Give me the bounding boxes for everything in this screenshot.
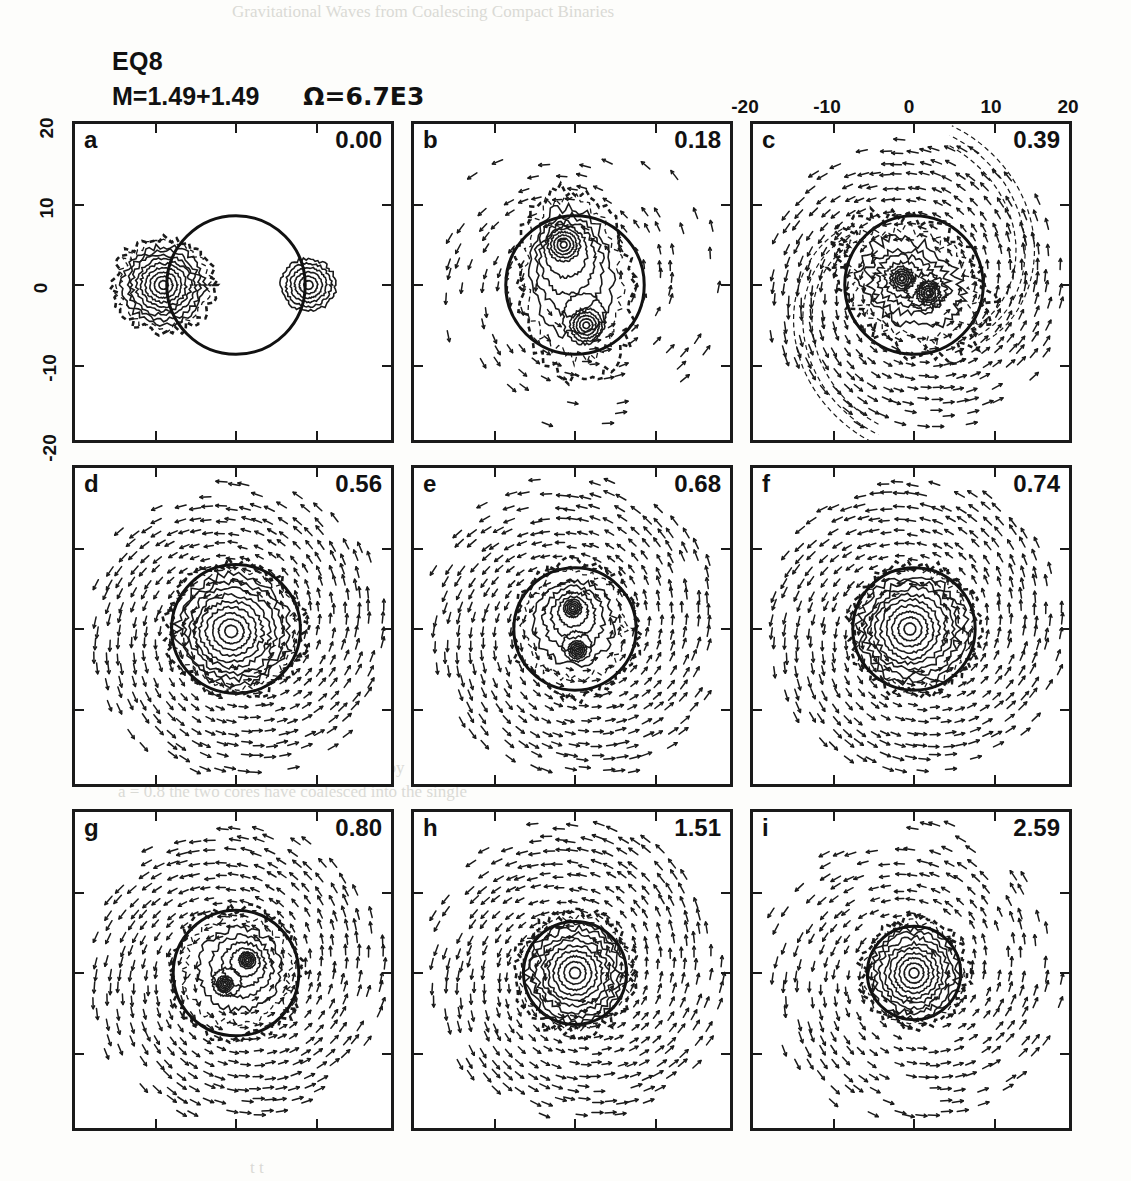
- panel-label: b: [423, 128, 438, 152]
- x-tick-label: -10: [813, 96, 840, 118]
- panel-i-plot: [753, 812, 1072, 1131]
- axis-tick: [414, 709, 423, 711]
- panel-b[interactable]: b 0.18: [411, 121, 733, 443]
- axis-tick: [414, 892, 423, 894]
- axis-tick: [994, 431, 996, 440]
- panel-f[interactable]: f 0.74: [750, 465, 1072, 787]
- y-tick-label: -20: [39, 434, 61, 461]
- axis-tick: [316, 775, 318, 784]
- panel-time: 0.56: [335, 472, 382, 496]
- axis-tick: [1060, 365, 1069, 367]
- axis-tick: [1060, 548, 1069, 550]
- panel-time: 0.74: [1013, 472, 1060, 496]
- axis-tick: [75, 548, 84, 550]
- panel-e[interactable]: e 0.68: [411, 465, 733, 787]
- axis-tick: [574, 431, 576, 440]
- axis-tick: [75, 972, 84, 974]
- panel-g[interactable]: g 0.80: [72, 809, 394, 1131]
- axis-tick: [574, 124, 576, 133]
- axis-tick: [913, 124, 915, 133]
- axis-tick: [235, 468, 237, 477]
- axis-tick: [721, 284, 730, 286]
- axis-tick: [1060, 972, 1069, 974]
- axis-tick: [753, 709, 762, 711]
- panel-d[interactable]: d 0.56: [72, 465, 394, 787]
- axis-tick: [753, 365, 762, 367]
- panel-time: 0.00: [335, 128, 382, 152]
- panel-time: 1.51: [674, 816, 721, 840]
- axis-tick: [414, 284, 423, 286]
- axis-tick: [235, 775, 237, 784]
- axis-tick: [753, 284, 762, 286]
- panel-label: h: [423, 816, 438, 840]
- panel-label: g: [84, 816, 99, 840]
- axis-tick: [316, 124, 318, 133]
- panel-f-plot: [753, 468, 1072, 787]
- axis-tick: [913, 468, 915, 477]
- axis-tick: [753, 892, 762, 894]
- panel-a-plot: [75, 124, 394, 443]
- axis-tick: [414, 548, 423, 550]
- panel-label: e: [423, 472, 436, 496]
- axis-tick: [494, 1119, 496, 1128]
- axis-tick: [75, 365, 84, 367]
- axis-tick: [414, 365, 423, 367]
- axis-tick: [721, 628, 730, 630]
- panel-e-plot: [414, 468, 733, 787]
- axis-tick: [655, 124, 657, 133]
- axis-tick: [155, 468, 157, 477]
- axis-tick: [721, 892, 730, 894]
- density-contours: [110, 235, 336, 335]
- axis-tick: [721, 972, 730, 974]
- density-contours: [846, 562, 983, 699]
- velocity-vectors: [430, 479, 711, 773]
- axis-tick: [494, 431, 496, 440]
- axis-tick: [913, 812, 915, 821]
- axis-tick: [494, 812, 496, 821]
- panel-label: c: [762, 128, 775, 152]
- x-tick-label: -20: [731, 96, 758, 118]
- axis-tick: [235, 124, 237, 133]
- axis-tick: [655, 468, 657, 477]
- axis-tick: [316, 1119, 318, 1128]
- panel-time: 0.80: [335, 816, 382, 840]
- axis-tick: [1060, 204, 1069, 206]
- panel-h[interactable]: h 1.51: [411, 809, 733, 1131]
- axis-tick: [382, 892, 391, 894]
- panel-time: 0.68: [674, 472, 721, 496]
- velocity-vectors: [93, 480, 386, 774]
- axis-tick: [155, 124, 157, 133]
- axis-tick: [721, 1053, 730, 1055]
- axis-tick: [833, 775, 835, 784]
- panel-d-plot: [75, 468, 394, 787]
- axis-tick: [382, 628, 391, 630]
- axis-tick: [994, 468, 996, 477]
- axis-tick: [382, 1053, 391, 1055]
- axis-tick: [1060, 1053, 1069, 1055]
- axis-tick: [382, 972, 391, 974]
- axis-tick: [155, 775, 157, 784]
- axis-tick: [414, 204, 423, 206]
- axis-tick: [655, 431, 657, 440]
- axis-tick: [382, 204, 391, 206]
- y-tick-label: 20: [36, 117, 58, 138]
- axis-tick: [655, 775, 657, 784]
- axis-tick: [574, 812, 576, 821]
- velocity-vectors: [768, 821, 1064, 1118]
- panel-g-plot: [75, 812, 394, 1131]
- axis-tick: [494, 124, 496, 133]
- axis-tick: [721, 548, 730, 550]
- density-contours: [857, 913, 972, 1030]
- axis-tick: [494, 775, 496, 784]
- axis-tick: [75, 1053, 84, 1055]
- velocity-vectors: [769, 480, 1064, 773]
- y-tick-label: 10: [36, 197, 58, 218]
- axis-tick: [414, 1053, 423, 1055]
- panel-a[interactable]: a 0.00: [72, 121, 394, 443]
- axis-tick: [235, 431, 237, 440]
- axis-tick: [75, 284, 84, 286]
- panel-c[interactable]: c 0.39: [750, 121, 1072, 443]
- axis-tick: [1060, 284, 1069, 286]
- panel-i[interactable]: i 2.59: [750, 809, 1072, 1131]
- reference-circle: [167, 216, 305, 354]
